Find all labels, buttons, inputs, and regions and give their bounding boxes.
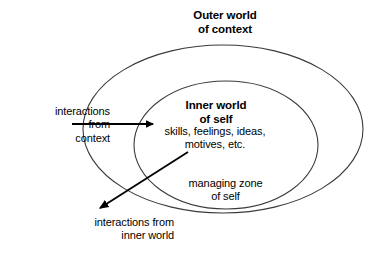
label-inner-world-detail: skills, feelings, ideas,motives, etc. — [140, 125, 290, 152]
label-inner-world-line1: Inner world — [186, 99, 247, 111]
label-interactions-inner-line2: inner world — [121, 229, 174, 241]
label-interactions-context-line1: interactions — [55, 105, 110, 117]
label-interactions-inner-line1: interactions from — [94, 216, 174, 228]
label-inner-world: Inner worldof self — [152, 98, 280, 126]
label-inner-world-line2: of self — [199, 113, 232, 125]
label-interactions-from-context: interactionsfromcontext — [2, 105, 110, 145]
label-inner-detail-line2: motives, etc. — [185, 138, 245, 150]
label-interactions-context-line2: from — [88, 118, 110, 130]
label-managing-zone-line1: managing zone — [189, 177, 263, 189]
label-outer-world: Outer worldof context — [160, 8, 290, 36]
label-interactions-from-inner-world: interactions frominner world — [24, 216, 174, 243]
concentric-self-context-diagram: Outer worldof context Inner worldof self… — [0, 0, 378, 256]
label-inner-detail-line1: skills, feelings, ideas, — [165, 125, 266, 137]
label-managing-zone: managing zoneof self — [163, 177, 288, 204]
label-managing-zone-line2: of self — [211, 190, 240, 202]
label-outer-world-line2: of context — [198, 23, 252, 35]
label-interactions-context-line3: context — [75, 132, 110, 144]
label-outer-world-line1: Outer world — [193, 9, 256, 21]
